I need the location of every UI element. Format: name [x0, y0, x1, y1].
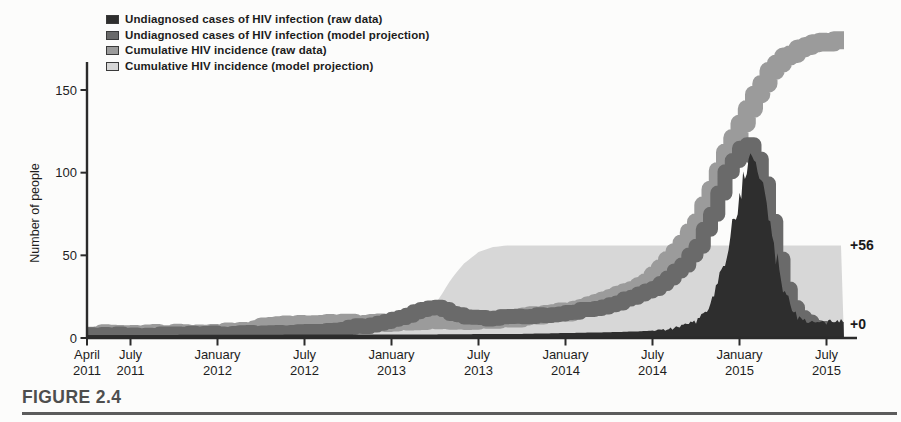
x-tick-label-month: July [815, 347, 839, 362]
y-tick-label: 50 [63, 248, 77, 263]
x-tick-label-month: July [119, 347, 143, 362]
x-tick-label-year: 2015 [812, 363, 841, 378]
chart-annotations: +56+0 [850, 237, 874, 332]
y-tick-label: 150 [55, 83, 77, 98]
x-tick-label-year: 2011 [73, 363, 101, 378]
x-tick-label-month: July [293, 347, 317, 362]
x-tick-label-month: April [74, 347, 100, 362]
x-tick-label-month: January [716, 347, 763, 362]
y-axis-title: Number of people [28, 163, 42, 262]
x-tick-label-year: 2013 [377, 363, 406, 378]
x-tick-label-year: 2012 [203, 363, 232, 378]
y-tick-label: 0 [70, 331, 77, 346]
annotation-plus-0: +0 [850, 316, 866, 332]
x-tick-label-month: January [542, 347, 589, 362]
y-tick-label: 100 [55, 165, 77, 180]
x-tick-label-year: 2015 [725, 363, 754, 378]
chart-series-group [87, 40, 844, 337]
x-tick-label-year: 2014 [551, 363, 580, 378]
x-tick-label-month: January [368, 347, 415, 362]
hiv-outbreak-chart-canvas: 050100150April2011July2011January2012Jul… [0, 0, 901, 422]
x-tick-label-month: July [467, 347, 491, 362]
annotation-plus-56: +56 [850, 237, 874, 253]
x-tick-label-month: January [194, 347, 241, 362]
x-tick-label-year: 2011 [117, 363, 145, 378]
figure-panel: Undiagnosed cases of HIV infection (raw … [0, 0, 901, 422]
x-tick-label-month: July [641, 347, 665, 362]
x-tick-label-year: 2013 [464, 363, 493, 378]
figure-label: FIGURE 2.4 [22, 387, 121, 408]
x-tick-label-year: 2012 [290, 363, 319, 378]
x-tick-label-year: 2014 [638, 363, 667, 378]
bottom-rule-divider [22, 412, 897, 415]
